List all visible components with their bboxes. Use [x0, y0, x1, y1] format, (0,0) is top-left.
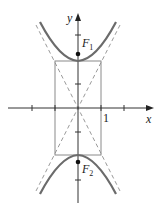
- hyperbola-diagram: [0, 0, 159, 205]
- x-tick-label-1: 1: [103, 112, 109, 124]
- x-axis-arrow-icon: [146, 105, 154, 111]
- focus-2-label: F2: [82, 163, 93, 178]
- y-axis-label: y: [67, 12, 72, 24]
- focus-1-subscript: 1: [89, 43, 93, 52]
- y-axis-arrow-icon: [75, 13, 81, 21]
- focus-1-point: [76, 52, 81, 57]
- focus-2-subscript: 2: [89, 169, 93, 178]
- x-axis-label: x: [146, 113, 151, 125]
- focus-1-label: F1: [82, 37, 93, 52]
- focus-2-point: [76, 160, 81, 165]
